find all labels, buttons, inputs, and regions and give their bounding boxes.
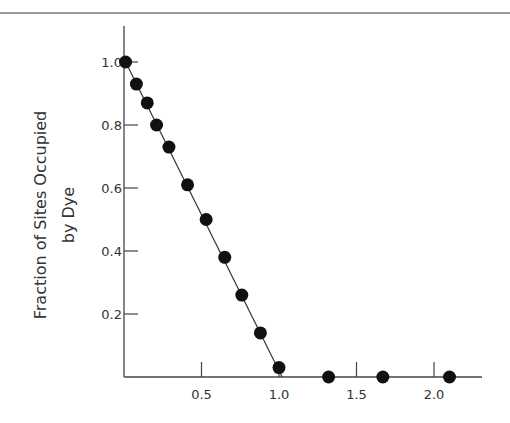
data-point — [162, 141, 175, 154]
y-axis-title: Fraction of Sites Occupied by Dye — [31, 111, 78, 320]
y-tick-label: 0.2 — [101, 307, 122, 322]
data-point — [254, 326, 267, 339]
x-tick-label: 1.0 — [269, 387, 290, 402]
y-tick-label: 1.0 — [101, 55, 122, 70]
y-tick-label: 0.6 — [101, 181, 122, 196]
data-points — [119, 56, 456, 384]
data-point — [218, 251, 231, 264]
data-point — [181, 178, 194, 191]
data-point — [322, 371, 335, 384]
y-axis-title-line1: Fraction of Sites Occupied — [31, 111, 50, 320]
data-point — [200, 213, 213, 226]
x-tick-label: 1.5 — [346, 387, 367, 402]
ticks: 0.20.40.60.81.00.51.01.52.0 — [101, 55, 444, 402]
x-tick-label: 2.0 — [424, 387, 445, 402]
axes — [124, 26, 482, 377]
y-axis-title-line2: by Dye — [59, 187, 78, 243]
data-point — [376, 371, 389, 384]
chart: 0.20.40.60.81.00.51.01.52.0 Fraction of … — [0, 0, 510, 423]
y-tick-label: 0.8 — [101, 118, 122, 133]
data-point — [130, 78, 143, 91]
data-point — [443, 371, 456, 384]
data-point — [119, 56, 132, 69]
data-point — [273, 361, 286, 374]
y-tick-label: 0.4 — [101, 244, 122, 259]
data-point — [150, 119, 163, 132]
data-point — [141, 96, 154, 109]
data-point — [235, 289, 248, 302]
x-tick-label: 0.5 — [191, 387, 212, 402]
